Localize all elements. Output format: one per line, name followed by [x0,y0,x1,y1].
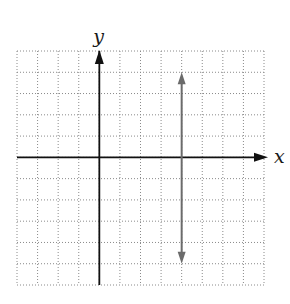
axes: x y [17,25,285,285]
y-axis-label: y [92,25,104,47]
line-arrow-down-icon [178,252,186,264]
x-axis-label: x [274,145,285,167]
plotted-line [178,72,186,263]
grid [17,51,264,285]
coordinate-plane: x y [0,0,290,304]
y-axis-arrow-icon [95,50,104,64]
x-axis-arrow-icon [254,153,268,162]
line-arrow-up-icon [178,72,186,84]
